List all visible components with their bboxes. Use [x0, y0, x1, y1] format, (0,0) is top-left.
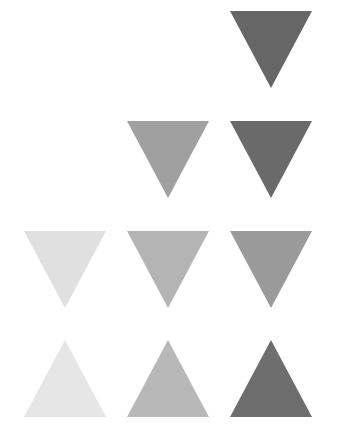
- triangle-marker: [24, 231, 106, 308]
- triangle-marker: [127, 121, 209, 198]
- triangle-marker: [127, 340, 209, 417]
- triangle-marker: [230, 231, 312, 308]
- triangle-grid-canvas: [0, 0, 337, 440]
- triangle-marker: [230, 340, 312, 417]
- triangle-marker: [230, 11, 312, 88]
- triangle-marker: [24, 340, 106, 417]
- triangle-marker: [127, 231, 209, 308]
- triangle-marker: [230, 121, 312, 198]
